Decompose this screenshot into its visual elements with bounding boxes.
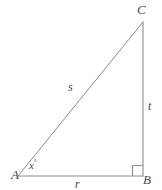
side-label-t: t: [148, 100, 151, 112]
triangle-figure: C A B s t r x°: [0, 0, 162, 190]
vertex-label-a: A: [11, 168, 19, 181]
side-label-s: s: [68, 81, 73, 93]
vertex-label-c: C: [137, 3, 146, 16]
degree-symbol-icon: °: [34, 158, 37, 166]
side-label-r: r: [75, 178, 80, 190]
angle-label-x: x°: [29, 159, 37, 171]
right-angle-marker-icon: [133, 166, 144, 177]
triangle-drawing: [0, 0, 162, 190]
side-hypotenuse-AC: [18, 22, 143, 176]
vertex-label-b: B: [143, 173, 151, 186]
